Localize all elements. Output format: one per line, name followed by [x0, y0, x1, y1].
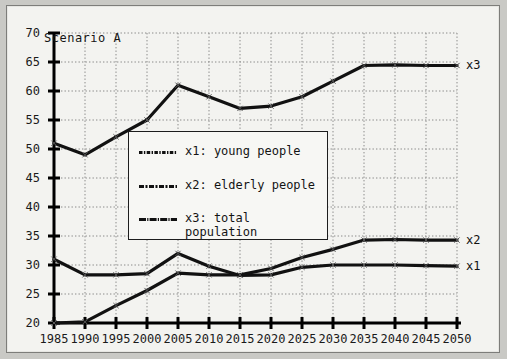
legend-line-sample-x1	[139, 149, 177, 156]
y-axis-label: 30	[12, 259, 40, 271]
series-end-label-x2: x2	[466, 233, 480, 247]
y-axis-label: 35	[12, 230, 40, 242]
screenshot-frame: Scenario A x1: young people x2: elderly …	[0, 0, 507, 359]
legend-line-sample-x3	[139, 216, 177, 223]
series-line-x2	[54, 239, 457, 323]
legend-label-x3-line2: population	[185, 225, 257, 239]
legend-label-x3: x3: total	[185, 211, 250, 225]
legend-label-x2: x2: elderly people	[185, 178, 315, 192]
y-axis-label: 50	[12, 143, 40, 155]
y-axis-label: 65	[12, 56, 40, 68]
y-axis-label: 70	[12, 27, 40, 39]
series-end-label-x1: x1	[466, 259, 480, 273]
y-axis-label: 55	[12, 114, 40, 126]
y-axis-label: 20	[12, 317, 40, 329]
scenario-label: Scenario A	[44, 31, 121, 45]
legend-line-sample-x2	[139, 183, 177, 190]
chart-legend: x1: young people x2: elderly people x3: …	[128, 131, 328, 240]
series-end-label-x3: x3	[466, 58, 480, 72]
y-axis-label: 45	[12, 172, 40, 184]
y-axis-label: 25	[12, 288, 40, 300]
y-axis-label: 60	[12, 85, 40, 97]
x-axis-label: 2050	[434, 333, 480, 345]
legend-label-x1: x1: young people	[185, 144, 301, 158]
y-axis-label: 40	[12, 201, 40, 213]
